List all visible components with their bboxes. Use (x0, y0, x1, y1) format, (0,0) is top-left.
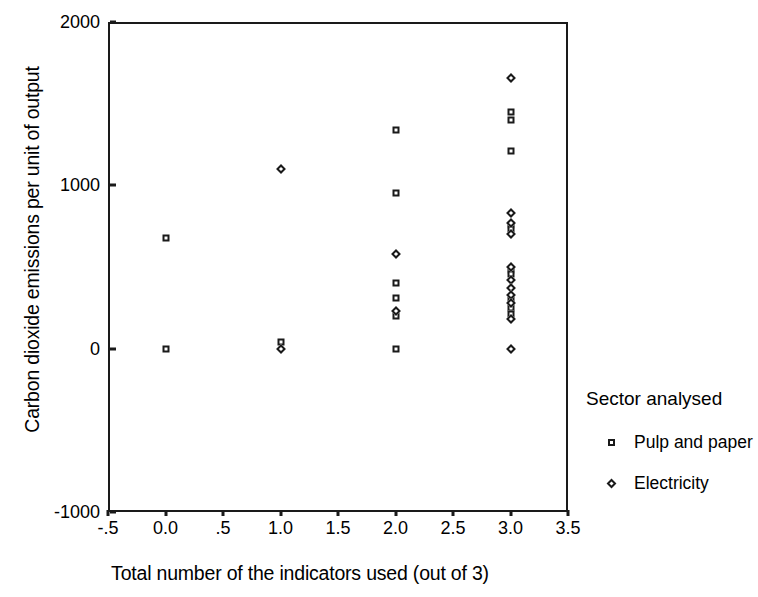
x-tick-mark (222, 510, 225, 516)
data-point-pulp-and-paper (162, 234, 169, 241)
scatter-chart-figure: Carbon dioxide emissions per unit of out… (0, 0, 758, 597)
data-point-pulp-and-paper (392, 345, 399, 352)
data-point-pulp-and-paper (507, 117, 514, 124)
x-tick-label: 1.0 (268, 518, 293, 539)
plot-area (108, 22, 568, 512)
x-tick-mark (164, 510, 167, 516)
x-tick-label: .5 (215, 518, 230, 539)
y-tick-mark (110, 21, 116, 24)
x-tick-label: 1.5 (325, 518, 350, 539)
y-tick-mark (110, 184, 116, 187)
legend-title: Sector analysed (586, 388, 758, 410)
data-point-pulp-and-paper (392, 295, 399, 302)
y-axis-title: Carbon dioxide emissions per unit of out… (21, 0, 44, 510)
square-marker-icon (602, 439, 620, 446)
y-tick-mark (110, 347, 116, 350)
data-point-pulp-and-paper (507, 148, 514, 155)
x-tick-mark (279, 510, 282, 516)
y-tick-text: 1000 (60, 175, 100, 196)
legend-item-pulp-and-paper[interactable]: Pulp and paper (602, 432, 758, 453)
x-tick-label: 3.0 (498, 518, 523, 539)
y-tick-text: 2000 (60, 12, 100, 33)
data-point-pulp-and-paper (392, 189, 399, 196)
x-tick-label: 2.5 (440, 518, 465, 539)
x-tick-mark (394, 510, 397, 516)
x-tick-mark (337, 510, 340, 516)
legend: Sector analysed Pulp and paper Electrici… (586, 388, 758, 514)
x-tick-mark (107, 510, 110, 516)
y-tick-mark (110, 511, 116, 514)
x-tick-label: 2.0 (383, 518, 408, 539)
y-tick-text: -1000 (54, 502, 100, 523)
x-axis-title: Total number of the indicators used (out… (60, 562, 540, 585)
legend-item-electricity[interactable]: Electricity (602, 473, 758, 494)
x-tick-mark (509, 510, 512, 516)
diamond-marker-icon (602, 480, 620, 487)
data-point-pulp-and-paper (392, 126, 399, 133)
legend-item-label: Electricity (634, 473, 709, 494)
x-tick-label: 0.0 (153, 518, 178, 539)
x-tick-label: 3.5 (555, 518, 580, 539)
data-point-pulp-and-paper (507, 108, 514, 115)
legend-item-label: Pulp and paper (634, 432, 753, 453)
data-point-pulp-and-paper (392, 280, 399, 287)
data-point-pulp-and-paper (162, 345, 169, 352)
x-tick-label: -.5 (97, 518, 118, 539)
x-tick-mark (452, 510, 455, 516)
x-tick-mark (567, 510, 570, 516)
y-tick-text: 0 (90, 338, 100, 359)
